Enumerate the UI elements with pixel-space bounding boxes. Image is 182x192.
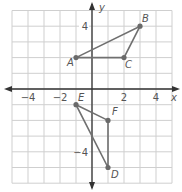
x-tick-label: −2 <box>53 92 68 103</box>
arrow-down-icon <box>89 182 95 190</box>
arrow-left-icon <box>4 86 12 92</box>
point-label-A: A <box>66 57 74 68</box>
point-E <box>73 102 78 107</box>
point-label-B: B <box>142 13 149 24</box>
x-tick-label: 2 <box>121 92 127 103</box>
y-tick-label: −4 <box>73 147 88 158</box>
point-D <box>105 165 110 170</box>
y-axis-label: y <box>98 2 106 13</box>
point-F <box>105 118 110 123</box>
coordinate-plane: −4−2244−4xyABCEFD <box>0 0 182 192</box>
point-A <box>73 55 78 60</box>
point-label-C: C <box>125 59 132 70</box>
point-label-E: E <box>78 92 85 103</box>
x-axis-label: x <box>170 92 177 103</box>
y-tick-label: 4 <box>82 21 88 32</box>
x-tick-label: −4 <box>21 92 36 103</box>
point-B <box>137 24 142 29</box>
x-tick-label: 4 <box>153 92 159 103</box>
point-label-F: F <box>112 106 118 117</box>
arrow-up-icon <box>89 2 95 10</box>
point-label-D: D <box>111 169 119 180</box>
